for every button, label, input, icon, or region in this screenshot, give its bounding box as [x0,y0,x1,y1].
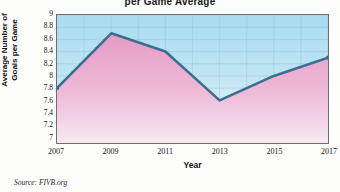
chart-figure: per Game Average Average Number of Goals… [0,0,340,192]
y-tick-label: 9 [22,10,53,18]
chart-plot-svg [57,15,328,143]
y-tick-label: 8 [22,72,53,80]
x-axis-title: Year [56,160,329,170]
y-tick-label: 7.8 [22,84,53,92]
x-tick-label: 2013 [200,147,240,156]
y-tick-label: 8.8 [22,22,53,30]
y-axis-title-line-2: Goals per Game [10,0,20,110]
y-tick-label: 7.4 [22,109,53,117]
plot-area [56,14,329,144]
x-tick-label: 2007 [36,147,76,156]
x-tick-label: 2017 [309,147,340,156]
y-tick-label: 8.4 [22,47,53,55]
x-tick-label: 2011 [145,147,185,156]
y-axis-title: Average Number of Goals per Game [0,0,26,110]
source-note: Source: FIVB.org [14,178,67,187]
y-tick-label: 7.6 [22,97,53,105]
y-tick-label: 7 [22,134,53,142]
y-axis-title-line-1: Average Number of [0,0,10,110]
x-tick-label: 2015 [254,147,294,156]
chart-title: per Game Average [0,0,340,7]
x-tick-label: 2009 [91,147,131,156]
y-tick-label: 7.2 [22,121,53,129]
y-tick-label: 8.2 [22,60,53,68]
y-tick-label: 8.6 [22,35,53,43]
